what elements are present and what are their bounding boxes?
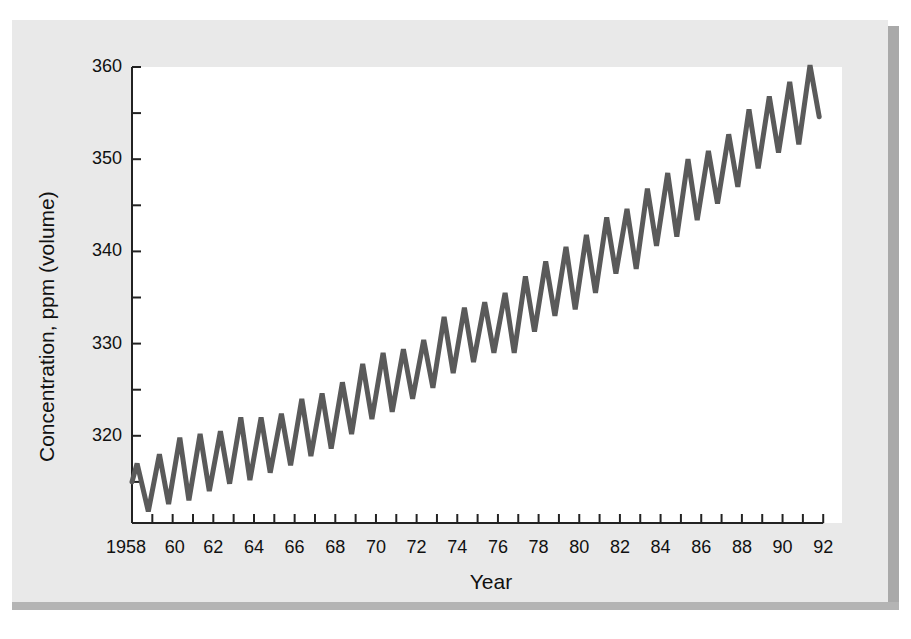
x-tick-label: 64 <box>244 537 264 558</box>
x-tick-label: 76 <box>488 537 508 558</box>
x-tick-label: 82 <box>610 537 630 558</box>
x-tick-label: 72 <box>407 537 427 558</box>
x-axis-title: Year <box>470 570 512 594</box>
x-tick-label: 62 <box>203 537 223 558</box>
x-tick-label: 84 <box>651 537 671 558</box>
y-tick-label: 320 <box>72 425 122 446</box>
y-tick-label: 350 <box>72 148 122 169</box>
x-tick-label: 86 <box>691 537 711 558</box>
y-tick-label: 330 <box>72 333 122 354</box>
x-tick-label: 60 <box>165 537 185 558</box>
x-tick-label: 88 <box>732 537 752 558</box>
x-tick-label: 78 <box>529 537 549 558</box>
x-tick-label: 68 <box>325 537 345 558</box>
x-tick-label: 90 <box>773 537 793 558</box>
x-tick-label: 66 <box>285 537 305 558</box>
x-tick-label: 92 <box>813 537 833 558</box>
x-tick-label: 74 <box>447 537 467 558</box>
x-tick-label: 70 <box>366 537 386 558</box>
y-tick-label: 340 <box>72 240 122 261</box>
co2-concentration-line <box>132 65 819 511</box>
x-tick-label: 80 <box>569 537 589 558</box>
x-tick-label: 1958 <box>106 537 146 558</box>
y-tick-label: 360 <box>72 56 122 77</box>
y-axis-title: Concentration, ppm (volume) <box>35 191 59 462</box>
